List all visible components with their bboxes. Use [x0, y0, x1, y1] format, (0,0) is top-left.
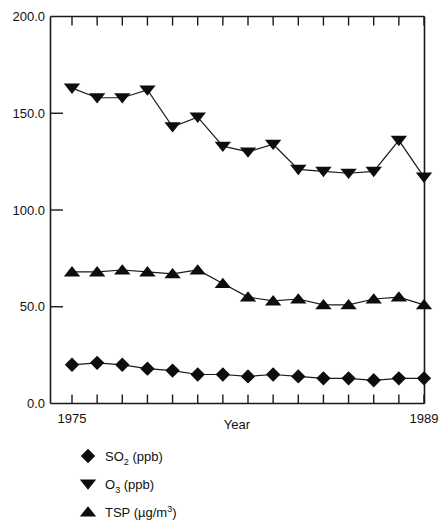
- y-axis-ticks: [51, 113, 64, 307]
- series-tsp-ug-m3-: [64, 264, 432, 309]
- data-point: [114, 93, 130, 103]
- data-point: [316, 371, 330, 385]
- y-tick-label-100: 100.0: [12, 203, 45, 218]
- chart-figure: 200.0 150.0 100.0 50.0 0.0 1975 1989 Yea…: [0, 0, 447, 526]
- diamond-marker-icon: [81, 449, 95, 463]
- x-axis-title: Year: [224, 417, 251, 432]
- data-point: [266, 367, 280, 381]
- y-axis-labels: 200.0 150.0 100.0 50.0 0.0: [12, 9, 45, 411]
- data-point: [240, 147, 256, 157]
- data-point: [416, 299, 432, 309]
- data-point: [392, 371, 406, 385]
- data-point: [416, 173, 432, 183]
- x-axis-labels: 1975 1989 Year: [58, 411, 439, 432]
- data-point: [140, 361, 154, 375]
- x-axis-ticks-top: [72, 17, 424, 26]
- data-point: [114, 264, 130, 274]
- x-tick-label-last: 1989: [410, 411, 439, 426]
- data-point: [115, 358, 129, 372]
- legend-label-o3: O3 (ppb): [105, 477, 154, 495]
- series-layer: [64, 84, 432, 388]
- legend-label-tsp: TSP (µg/m3): [105, 504, 177, 520]
- data-point: [190, 113, 206, 123]
- legend-label-so2: SO2 (ppb): [105, 449, 163, 467]
- y-tick-label-0: 0.0: [27, 396, 45, 411]
- air-quality-line-chart: 200.0 150.0 100.0 50.0 0.0 1975 1989 Yea…: [0, 0, 447, 526]
- legend-item-so2: SO2 (ppb): [81, 449, 163, 467]
- data-point: [90, 356, 104, 370]
- data-point: [215, 278, 231, 288]
- plot-frame: [51, 17, 425, 404]
- x-tick-label-first: 1975: [58, 411, 87, 426]
- chart-legend: SO2 (ppb) O3 (ppb) TSP (µg/m3): [80, 449, 177, 520]
- data-point: [291, 369, 305, 383]
- y-tick-label-200: 200.0: [12, 9, 45, 24]
- y-tick-label-50: 50.0: [20, 299, 45, 314]
- series-o3-ppb-: [64, 84, 432, 183]
- data-point: [367, 373, 381, 387]
- data-point: [340, 169, 356, 179]
- data-point: [417, 371, 431, 385]
- data-point: [391, 136, 407, 146]
- data-point: [240, 291, 256, 301]
- data-point: [65, 358, 79, 372]
- triangle-down-marker-icon: [80, 479, 96, 489]
- data-point: [164, 122, 180, 132]
- data-point: [64, 266, 80, 276]
- data-point: [341, 371, 355, 385]
- legend-item-tsp: TSP (µg/m3): [80, 504, 177, 520]
- data-point: [241, 369, 255, 383]
- data-point: [315, 299, 331, 309]
- data-point: [139, 86, 155, 96]
- legend-item-o3: O3 (ppb): [80, 477, 154, 495]
- data-point: [191, 367, 205, 381]
- y-tick-label-150: 150.0: [12, 106, 45, 121]
- series-so2-ppb-: [65, 356, 431, 388]
- x-axis-ticks-bottom: [72, 395, 424, 404]
- data-point: [190, 264, 206, 274]
- triangle-up-marker-icon: [80, 506, 96, 516]
- data-point: [165, 363, 179, 377]
- data-point: [391, 291, 407, 301]
- series-line: [72, 88, 424, 177]
- data-point: [89, 93, 105, 103]
- data-point: [265, 140, 281, 150]
- data-point: [64, 84, 80, 94]
- data-point: [215, 142, 231, 152]
- data-point: [340, 299, 356, 309]
- data-point: [290, 293, 306, 303]
- data-point: [216, 367, 230, 381]
